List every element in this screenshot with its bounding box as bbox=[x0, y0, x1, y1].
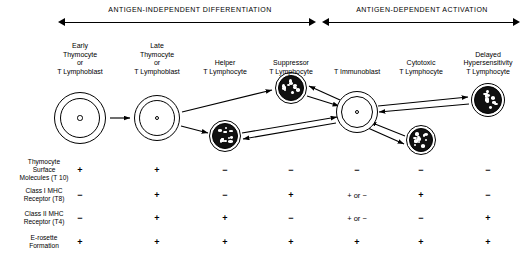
header-line: T Lymphocyte bbox=[463, 68, 512, 76]
cell-delayed bbox=[471, 83, 505, 117]
marker-t8-late-thymocyte: + bbox=[154, 191, 159, 200]
marker-t8-early-thymocyte: − bbox=[77, 191, 82, 200]
header-line: Hypersensitivity bbox=[463, 59, 512, 67]
row-label-line: Class I MHC bbox=[24, 187, 65, 195]
row-label-line: Molecules (T 10) bbox=[20, 174, 69, 182]
chromatin-pattern bbox=[475, 87, 500, 112]
marker-t10-suppressor: − bbox=[288, 166, 293, 175]
header-line: or bbox=[57, 59, 103, 67]
row-label-line: Class II MHC bbox=[24, 210, 65, 218]
row-label-line: E-rosette bbox=[29, 234, 59, 242]
column-header-delayed: DelayedHypersensitivityT Lymphocyte bbox=[463, 51, 512, 76]
column-header-late-thymocyte: LateThymocyteorT Lymphoblast bbox=[134, 42, 180, 76]
header-line: T Immunoblast bbox=[334, 68, 380, 76]
row-label-line: Receptor (T4) bbox=[24, 218, 65, 226]
marker-t10-helper: − bbox=[222, 166, 227, 175]
marker-t8-cytotoxic: + bbox=[418, 191, 423, 200]
column-header-early-thymocyte: EarlyThymocyteorT Lymphoblast bbox=[57, 42, 103, 76]
marker-erosette-helper: + bbox=[222, 238, 227, 247]
cell-t-immunoblast bbox=[336, 91, 378, 133]
header-line: Early bbox=[57, 42, 103, 50]
chromatin-pattern bbox=[279, 76, 303, 100]
header-line: Late bbox=[134, 42, 180, 50]
marker-t10-late-thymocyte: + bbox=[154, 166, 159, 175]
column-header-t-immunoblast: T Immunoblast bbox=[334, 68, 380, 76]
header-line: T Lymphocyte bbox=[203, 68, 247, 76]
header-line: Thymocyte bbox=[57, 51, 103, 59]
row-label-line: Thymocyte bbox=[20, 158, 69, 166]
header-line: Suppressor bbox=[269, 59, 313, 67]
marker-erosette-suppressor: + bbox=[288, 238, 293, 247]
marker-t4-t-immunoblast: + or − bbox=[347, 214, 367, 223]
marker-t10-early-thymocyte: + bbox=[77, 166, 82, 175]
header-line: Thymocyte bbox=[134, 51, 180, 59]
marker-t4-cytotoxic: − bbox=[418, 214, 423, 223]
marker-t8-suppressor: + bbox=[288, 191, 293, 200]
row-label-line: Receptor (T8) bbox=[24, 195, 65, 203]
arrow-delayed-to-immunoblast bbox=[379, 104, 469, 112]
chromatin-pattern bbox=[410, 129, 432, 151]
cell-late-thymocyte bbox=[134, 95, 180, 141]
cell-early-thymocyte bbox=[54, 92, 106, 144]
arrow-late-to-suppressor bbox=[182, 90, 272, 112]
marker-t10-cytotoxic: − bbox=[418, 166, 423, 175]
column-header-suppressor: SuppressorT Lymphocyte bbox=[269, 59, 313, 76]
marker-t4-suppressor: − bbox=[288, 214, 293, 223]
chromatin-pattern bbox=[213, 124, 237, 148]
marker-erosette-cytotoxic: + bbox=[418, 238, 423, 247]
nucleolus bbox=[77, 115, 82, 120]
row-label-line: Formation bbox=[29, 242, 59, 250]
marker-t8-delayed: − bbox=[485, 191, 490, 200]
cell-suppressor bbox=[275, 72, 307, 104]
row-label-line: Surface bbox=[20, 166, 69, 174]
header-line: Cytotoxic bbox=[399, 59, 443, 67]
cell-helper bbox=[209, 120, 241, 152]
column-header-cytotoxic: CytotoxicT Lymphocyte bbox=[399, 59, 443, 76]
row-label-t8: Class I MHCReceptor (T8) bbox=[24, 187, 65, 203]
marker-t4-helper: + bbox=[222, 214, 227, 223]
marker-erosette-t-immunoblast: + bbox=[354, 238, 359, 247]
header-line: or bbox=[134, 59, 180, 67]
marker-erosette-late-thymocyte: + bbox=[154, 238, 159, 247]
marker-t10-t-immunoblast: − bbox=[354, 166, 359, 175]
column-header-helper: HelperT Lymphocyte bbox=[203, 59, 247, 76]
row-label-t10: ThymocyteSurfaceMolecules (T 10) bbox=[20, 158, 69, 182]
marker-t4-late-thymocyte: + bbox=[154, 214, 159, 223]
header-line: Helper bbox=[203, 59, 247, 67]
marker-t10-delayed: − bbox=[485, 166, 490, 175]
marker-t4-delayed: + bbox=[485, 214, 490, 223]
cell-cytotoxic bbox=[406, 125, 436, 155]
row-label-erosette: E-rosetteFormation bbox=[29, 234, 59, 250]
marker-t4-early-thymocyte: − bbox=[77, 214, 82, 223]
arrow-late-to-helper bbox=[181, 126, 208, 133]
header-line: T Lymphocyte bbox=[399, 68, 443, 76]
diagram-canvas: ANTIGEN-INDEPENDENT DIFFERENTIATIONANTIG… bbox=[0, 0, 524, 263]
marker-t8-t-immunoblast: + or − bbox=[347, 191, 367, 200]
marker-t8-helper: − bbox=[222, 191, 227, 200]
header-line: Delayed bbox=[463, 51, 512, 59]
header-line: T Lymphoblast bbox=[134, 68, 180, 76]
marker-erosette-early-thymocyte: + bbox=[77, 238, 82, 247]
header-line: T Lymphoblast bbox=[57, 68, 103, 76]
row-label-t4: Class II MHCReceptor (T4) bbox=[24, 210, 65, 226]
header-line: T Lymphocyte bbox=[269, 68, 313, 76]
marker-erosette-delayed: + bbox=[485, 238, 490, 247]
arrow-immunoblast-to-delayed bbox=[378, 97, 468, 106]
